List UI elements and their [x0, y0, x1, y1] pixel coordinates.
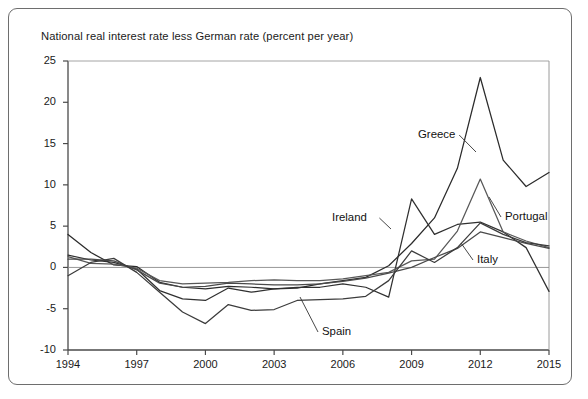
series-label-italy: Italy — [477, 253, 498, 265]
series-label-greece: Greece — [418, 128, 455, 140]
x-axis-tick-label: 2009 — [392, 358, 432, 370]
x-axis-tick-label: 2015 — [529, 358, 569, 370]
axis-lines — [68, 61, 549, 350]
x-axis-tick-label: 2000 — [185, 358, 225, 370]
x-axis-tick-label: 1997 — [117, 358, 157, 370]
y-axis-tick-label: 5 — [30, 219, 56, 231]
x-axis-tick-label: 2006 — [323, 358, 363, 370]
y-axis-tick-label: 10 — [30, 178, 56, 190]
y-tick-marks — [63, 61, 68, 350]
x-tick-marks — [68, 350, 549, 355]
x-axis-tick-label: 2012 — [460, 358, 500, 370]
series-label-spain: Spain — [322, 325, 351, 337]
y-axis-tick-label: 15 — [30, 137, 56, 149]
x-axis-tick-label: 2003 — [254, 358, 294, 370]
y-axis-tick-label: 25 — [30, 54, 56, 66]
leader-line-italy — [461, 243, 473, 260]
x-axis-tick-label: 1994 — [48, 358, 88, 370]
y-axis-tick-label: 0 — [30, 260, 56, 272]
leader-line-spain — [300, 297, 318, 332]
series-label-portugal: Portugal — [505, 210, 547, 222]
y-axis-tick-label: 20 — [30, 95, 56, 107]
series-label-ireland: Ireland — [332, 211, 367, 223]
y-axis-tick-label: -10 — [30, 343, 56, 355]
series-line-ireland — [68, 199, 549, 301]
line-chart: National real interest rate less German … — [0, 0, 588, 399]
series-paths — [68, 78, 549, 324]
leader-line-ireland — [379, 218, 391, 229]
y-axis-tick-label: -5 — [30, 302, 56, 314]
chart-plot-svg — [0, 0, 588, 399]
series-line-spain — [68, 223, 549, 324]
